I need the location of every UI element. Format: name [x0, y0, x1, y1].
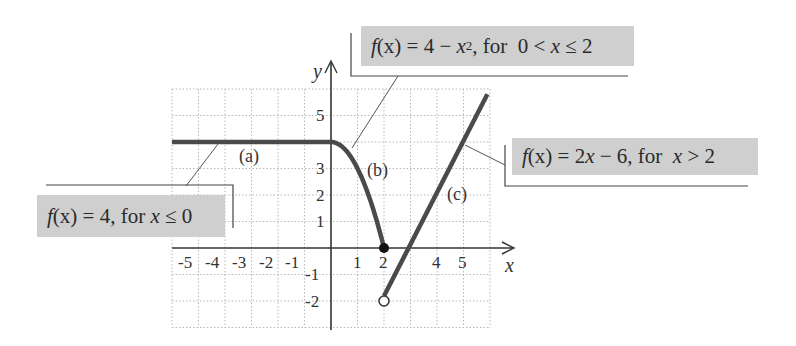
- label-text: = 4, for: [77, 204, 150, 229]
- leader-line-c: [465, 145, 505, 165]
- y-tick: 3: [316, 159, 325, 178]
- x-tick: 4: [432, 253, 441, 272]
- label-text: ≤ 0: [160, 204, 193, 229]
- leader-line-b: [352, 76, 398, 148]
- label-text: x: [673, 144, 682, 169]
- open-point-marker: [379, 296, 389, 306]
- x-tick: -2: [259, 253, 273, 272]
- x-tick: -3: [232, 253, 246, 272]
- label-text: (x): [53, 204, 78, 229]
- label-box-a: f(x) = 4, for x ≤ 0: [37, 195, 225, 237]
- y-axis-label: y: [311, 60, 322, 83]
- label-text: = 2: [552, 144, 585, 169]
- label-text: (x): [528, 144, 553, 169]
- label-text: = 4 −: [401, 34, 456, 59]
- label-text: x: [585, 144, 594, 169]
- x-tick: -5: [178, 253, 192, 272]
- label-text: , for 0 <: [472, 34, 550, 59]
- y-tick: -1: [305, 265, 319, 284]
- x-tick: -4: [205, 253, 220, 272]
- x-tick: 1: [353, 253, 362, 272]
- piece-tag-c: (c): [447, 184, 467, 205]
- label-text: ≤ 2: [560, 34, 593, 59]
- piece-tag-b: (b): [367, 160, 388, 181]
- y-tick: -2: [305, 292, 319, 311]
- y-tick: 1: [316, 212, 325, 231]
- x-tick: 2: [379, 253, 388, 272]
- x-tick: -1: [285, 253, 299, 272]
- label-box-b: f(x) = 4 − x2, for 0 < x ≤ 2: [361, 26, 634, 66]
- closed-point-marker: [379, 243, 389, 253]
- label-text: > 2: [682, 144, 715, 169]
- x-tick: 5: [458, 253, 467, 272]
- label-text: x: [150, 204, 159, 229]
- y-tick: 5: [316, 106, 325, 125]
- label-text: − 6, for: [595, 144, 673, 169]
- label-text: x: [551, 34, 560, 59]
- piece-tag-a: (a): [239, 146, 259, 167]
- label-text: (x): [377, 34, 402, 59]
- leader-lines: [186, 76, 505, 186]
- y-tick: 2: [316, 186, 325, 205]
- y-tick-labels: 5 3 2 1 -1 -2: [305, 106, 325, 311]
- leader-line-a: [186, 144, 218, 186]
- x-axis-label: x: [504, 254, 514, 276]
- label-text: x: [457, 34, 466, 59]
- x-tick-labels: -5 -4 -3 -2 -1 1 2 4 5: [178, 253, 467, 272]
- label-box-c: f(x) = 2x − 6, for x > 2: [512, 138, 758, 175]
